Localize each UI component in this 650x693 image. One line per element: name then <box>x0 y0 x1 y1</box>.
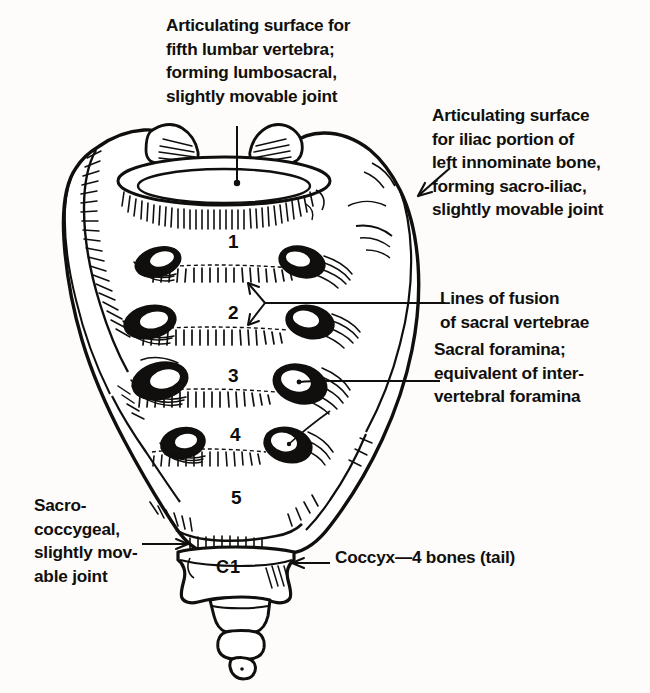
label-lines-of-fusion: Lines of fusion of sacral vertebrae <box>440 287 589 334</box>
vertebra-number-c1: C1 <box>216 558 241 577</box>
label-sacrococcygeal-joint: Sacro- coccygeal, slightly mov- able joi… <box>34 494 137 588</box>
leader-sacrococcygeal <box>142 539 188 549</box>
label-sacroiliac-joint: Articulating surface for iliac portion o… <box>432 104 603 222</box>
leader-coccyx <box>292 558 330 568</box>
page-bleed-through <box>0 672 650 693</box>
vertebra-number-s3: 3 <box>228 366 239 385</box>
label-coccyx: Coccyx—4 bones (tail) <box>335 546 515 570</box>
coccyx-bone-2 <box>210 597 270 632</box>
vertebra-number-s4: 4 <box>230 425 241 444</box>
l5-articular-ellipse-inner <box>138 169 310 203</box>
label-sacral-foramina: Sacral foramina; equivalent of inter- ve… <box>434 338 584 409</box>
vertebra-number-s1: 1 <box>228 232 239 251</box>
coccyx-bone-3 <box>218 631 264 660</box>
figure-page: Articulating surface for fifth lumbar ve… <box>0 0 650 693</box>
label-lumbosacral-joint: Articulating surface for fifth lumbar ve… <box>166 14 350 108</box>
vertebra-number-s2: 2 <box>228 303 239 322</box>
vertebra-number-s5: 5 <box>231 488 242 507</box>
